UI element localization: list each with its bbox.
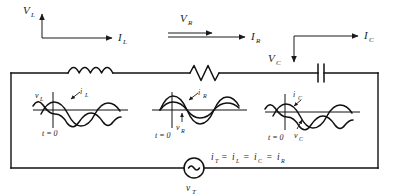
capacitor-reference-arrows: I C V C	[268, 29, 374, 67]
inductor-symbol	[68, 68, 113, 74]
inductor-waveforms: v L i L t = 0	[33, 87, 128, 138]
resistor-current-sub: R	[255, 37, 261, 45]
inductor-current-wave-sub: L	[84, 92, 89, 98]
resistor-voltage-sub: R	[187, 19, 193, 27]
eq-term-2-base: i	[254, 152, 257, 162]
inductor-current-sub: L	[122, 38, 127, 46]
eq-operator-1: =	[243, 152, 249, 162]
resistor-current-wave-label: i	[198, 88, 200, 97]
eq-operator-2: =	[266, 152, 272, 162]
eq-term-0-sub: T	[215, 158, 219, 164]
capacitor-current-wave-label: i	[293, 90, 295, 99]
ac-source-sine-glyph	[189, 166, 200, 170]
resistor-current-pointer	[189, 93, 198, 100]
capacitor-voltage-label: V	[268, 52, 276, 64]
inductor-current-pointer	[71, 92, 80, 99]
current-equality-equation: i T = i L = i C = i R	[211, 152, 285, 164]
source-label: v	[186, 183, 191, 193]
ac-source: v T	[184, 158, 204, 196]
capacitor-voltage-wave-sub: C	[299, 136, 304, 142]
inductor-voltage-label: V	[23, 4, 31, 16]
resistor-current-wave-sub: R	[202, 93, 207, 99]
resistor-reference-arrows: V R I R	[168, 12, 261, 45]
resistor-voltage-wave-sub: R	[180, 128, 185, 134]
capacitor-waveforms: i C v C t = 0	[265, 90, 360, 142]
eq-term-3-sub: R	[280, 158, 285, 164]
inductor-voltage-sub: L	[30, 11, 35, 19]
resistor-waveforms: i R v R t = 0	[152, 88, 247, 140]
inductor-voltage-wave-sub: L	[39, 96, 44, 102]
capacitor-time-zero-label: t = 0	[268, 133, 284, 142]
diagram-canvas: V L I L V R I R I C V C	[0, 0, 395, 196]
capacitor-voltage-wave-label: v	[294, 131, 298, 140]
resistor-voltage-label: V	[180, 12, 188, 24]
capacitor-voltage-sub: C	[276, 59, 281, 67]
resistor-time-zero-label: t = 0	[155, 131, 171, 140]
inductor-current-wave-label: i	[80, 87, 82, 96]
eq-term-2-sub: C	[258, 158, 263, 164]
circuit-diagram-figure: V L I L V R I R I C V C	[0, 0, 395, 196]
inductor-voltage-wave-label: v	[35, 91, 39, 100]
capacitor-current-wave-sub: C	[298, 95, 303, 101]
inductor-time-zero-label: t = 0	[42, 129, 58, 138]
capacitor-current-sub: C	[369, 36, 374, 44]
eq-term-1-sub: L	[235, 158, 240, 164]
eq-term-1-base: i	[232, 152, 235, 162]
eq-operator-0: =	[221, 152, 227, 162]
resistor-voltage-wave-label: v	[176, 123, 180, 132]
source-label-sub: T	[192, 188, 197, 196]
eq-term-0-base: i	[211, 152, 214, 162]
eq-term-3-base: i	[277, 152, 280, 162]
resistor-symbol	[190, 66, 219, 81]
inductor-reference-arrows: V L I L	[23, 4, 127, 46]
